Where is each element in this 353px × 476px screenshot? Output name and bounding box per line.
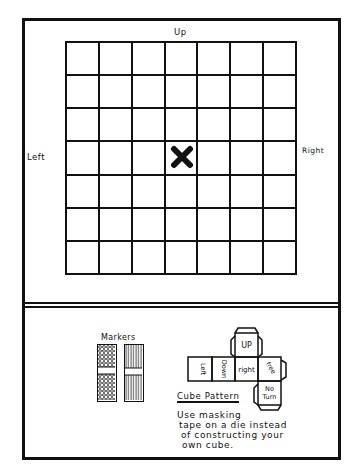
grid-cell (133, 76, 166, 109)
grid-cell (264, 76, 297, 109)
note-line-1: Use masking (177, 410, 241, 420)
marker-dotted (97, 344, 117, 402)
grid-cell (166, 76, 199, 109)
grid-cell (264, 43, 297, 76)
grid-cell (100, 142, 133, 175)
grid-cell (67, 142, 100, 175)
grid-cell (231, 43, 264, 76)
grid-cell (133, 176, 166, 209)
grid-cell (133, 242, 166, 275)
start-x-icon (170, 145, 194, 169)
label-right: Right (302, 146, 324, 155)
grid-cell (166, 109, 199, 142)
grid-cell (198, 209, 231, 242)
grid-cell (198, 242, 231, 275)
grid-cell (231, 76, 264, 109)
grid-cell (100, 176, 133, 209)
grid-cell (166, 43, 199, 76)
grid-cell (231, 109, 264, 142)
grid-cell (198, 76, 231, 109)
grid-cell (133, 209, 166, 242)
grid-cell (133, 43, 166, 76)
grid-cell (100, 43, 133, 76)
face-free: free (264, 360, 277, 375)
label-up: Up (174, 27, 187, 37)
grid-cell (67, 209, 100, 242)
face-no-turn-2: Turn (262, 393, 277, 401)
grid-cell (264, 176, 297, 209)
grid-cell (133, 109, 166, 142)
grid-cell (264, 242, 297, 275)
cube-pattern-diagram: UP Left Down right free No Turn (185, 326, 295, 421)
grid-cell (100, 109, 133, 142)
grid-cell (198, 176, 231, 209)
face-left: Left (199, 363, 207, 376)
grid-cell (100, 76, 133, 109)
face-up: UP (241, 341, 252, 350)
grid-cell (100, 242, 133, 275)
section-divider-2 (22, 306, 341, 308)
cube-pattern-title: Cube Pattern (177, 391, 239, 403)
face-no-turn-1: No (265, 385, 274, 393)
grid-cell (166, 209, 199, 242)
grid-cell (166, 242, 199, 275)
grid-cell (67, 43, 100, 76)
grid-cell (67, 242, 100, 275)
grid-cell (67, 109, 100, 142)
grid-cell (264, 142, 297, 175)
grid-cell (198, 109, 231, 142)
grid-cell (198, 142, 231, 175)
label-left: Left (27, 152, 45, 162)
grid-cell (67, 76, 100, 109)
grid-cell (231, 176, 264, 209)
grid-cell (231, 142, 264, 175)
grid-cell (231, 209, 264, 242)
grid-cell (133, 142, 166, 175)
note-line-4: own cube. (182, 440, 234, 450)
grid-cell (264, 109, 297, 142)
grid-cell (231, 242, 264, 275)
section-divider (22, 302, 341, 304)
face-right: right (238, 366, 255, 374)
note-line-3: of constructing your (181, 430, 284, 440)
grid-cell (67, 176, 100, 209)
grid-cell (166, 176, 199, 209)
marker-striped (124, 344, 144, 402)
grid-cell (264, 209, 297, 242)
face-down: Down (220, 360, 228, 378)
markers-title: Markers (101, 333, 136, 342)
note-line-2: tape on a die instead (179, 420, 287, 430)
grid-cell (100, 209, 133, 242)
grid-cell (198, 43, 231, 76)
